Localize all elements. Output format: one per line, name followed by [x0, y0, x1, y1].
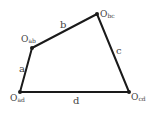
joint-bc-dot [95, 12, 99, 16]
joint-ab-dot [30, 46, 34, 50]
vertex-bc-label: Obc [100, 9, 115, 19]
vertex-ab-label: Oab [21, 34, 36, 44]
side-d-label: d [73, 95, 80, 106]
side-c-label: c [116, 45, 122, 56]
side-a-label: a [19, 63, 25, 74]
side-c-line [97, 14, 129, 92]
joint-ad-dot [18, 90, 22, 94]
vertex-cd-label: Ocd [131, 92, 146, 102]
four-bar-linkage-diagram: a b c d Oab Obc Ocd Oad [0, 0, 157, 113]
side-b-label: b [60, 19, 66, 30]
vertex-ad-label: Oad [10, 93, 25, 103]
